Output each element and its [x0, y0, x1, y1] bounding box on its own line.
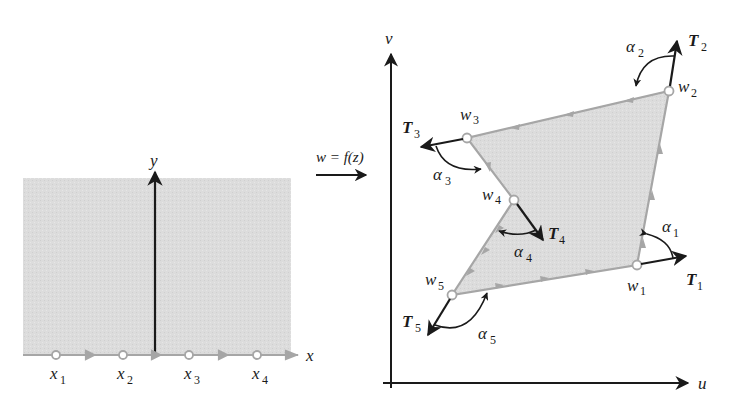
svg-text:α: α	[478, 324, 488, 343]
svg-text:2: 2	[691, 86, 697, 100]
angle-alpha5: α 5	[435, 293, 496, 347]
tangent-T3: T 3	[402, 118, 463, 147]
svg-text:x: x	[251, 364, 260, 383]
svg-text:3: 3	[194, 373, 200, 387]
svg-text:w: w	[425, 270, 437, 289]
svg-text:4: 4	[526, 251, 532, 265]
conformal-map-diagram: y x x 1 x 2 x 3 x 4	[0, 0, 736, 401]
svg-text:5: 5	[438, 279, 444, 293]
svg-text:T: T	[402, 118, 413, 137]
angle-alpha2: α 2	[626, 37, 674, 86]
svg-text:4: 4	[495, 193, 501, 207]
svg-text:1: 1	[60, 373, 66, 387]
svg-text:2: 2	[638, 46, 644, 60]
w-plane: v u w 1	[383, 29, 707, 393]
svg-text:3: 3	[473, 113, 479, 127]
tangent-T5: T 5	[402, 299, 450, 335]
mapping-arrow: w = f(z)	[316, 149, 366, 175]
x2-point: x 2	[116, 351, 133, 387]
svg-text:w: w	[627, 276, 639, 295]
angle-alpha3: α 3	[433, 146, 481, 188]
svg-text:T: T	[686, 270, 697, 289]
x1-point: x 1	[49, 351, 66, 387]
svg-text:w: w	[482, 185, 494, 204]
vertex-w2: w 2	[665, 77, 698, 100]
svg-text:α: α	[662, 217, 672, 236]
svg-text:1: 1	[697, 279, 703, 293]
svg-text:x: x	[116, 364, 125, 383]
svg-text:3: 3	[445, 174, 451, 188]
svg-text:1: 1	[673, 226, 679, 240]
svg-text:4: 4	[559, 233, 565, 247]
svg-text:1: 1	[640, 284, 646, 298]
z-plane: y x x 1 x 2 x 3 x 4	[23, 151, 314, 387]
svg-text:x: x	[49, 364, 58, 383]
svg-text:T: T	[688, 31, 699, 50]
svg-text:α: α	[626, 37, 636, 56]
svg-text:3: 3	[414, 127, 420, 141]
v-axis-label: v	[385, 29, 393, 48]
svg-text:5: 5	[490, 333, 496, 347]
svg-text:w: w	[460, 105, 472, 124]
svg-text:α: α	[514, 242, 524, 261]
svg-text:4: 4	[262, 373, 268, 387]
mapping-label: w = f(z)	[316, 149, 364, 166]
vertex-w5: w 5	[425, 270, 457, 300]
angle-alpha1: α 1	[647, 217, 679, 258]
x3-point: x 3	[183, 351, 200, 387]
u-axis-label: u	[698, 374, 707, 393]
svg-text:α: α	[433, 165, 443, 184]
svg-text:2: 2	[127, 373, 133, 387]
svg-text:w: w	[678, 77, 690, 96]
y-axis-label: y	[148, 151, 158, 170]
tangent-T1: T 1	[641, 256, 703, 293]
svg-text:2: 2	[701, 40, 707, 54]
x-axis-label: x	[305, 346, 314, 365]
svg-text:T: T	[548, 224, 559, 243]
svg-text:x: x	[183, 364, 192, 383]
svg-text:5: 5	[415, 321, 421, 335]
svg-text:T: T	[402, 312, 413, 331]
upper-half-plane-region	[23, 178, 291, 355]
direction-arrow-icon	[286, 351, 296, 359]
x4-point: x 4	[251, 351, 268, 387]
